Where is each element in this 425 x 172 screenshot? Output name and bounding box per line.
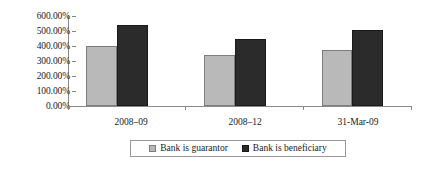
bar-chart: 600.00% 500.00% 400.00% 300.00% 200.00% …	[0, 0, 425, 172]
light-gray-swatch-icon	[149, 145, 156, 152]
x-axis-tick-start	[68, 106, 69, 110]
dark-swatch-icon	[242, 145, 249, 152]
x-axis-category-label-3: 31-Mar-09	[304, 116, 412, 128]
x-axis-tick-1	[185, 106, 186, 110]
legend-label: Bank is beneficiary	[253, 143, 327, 154]
bar-guarantor-2008-12	[204, 55, 235, 106]
chart-legend: Bank is guarantor Bank is beneficiary	[130, 140, 346, 157]
x-axis-tick-2	[303, 106, 304, 110]
x-axis-category-label-2: 2008–12	[191, 116, 299, 128]
legend-label: Bank is guarantor	[160, 143, 228, 154]
x-axis-line	[68, 106, 412, 107]
x-axis-category-label-1: 2008–09	[77, 116, 185, 128]
bar-guarantor-31-mar-09	[322, 50, 352, 106]
bar-beneficiary-2008-09	[117, 25, 148, 107]
x-axis-tick-end	[411, 106, 412, 110]
legend-item-guarantor: Bank is guarantor	[149, 143, 228, 154]
bar-beneficiary-2008-12	[235, 39, 266, 106]
bar-beneficiary-31-mar-09	[352, 30, 383, 106]
bar-guarantor-2008-09	[86, 46, 117, 106]
legend-item-beneficiary: Bank is beneficiary	[242, 143, 327, 154]
